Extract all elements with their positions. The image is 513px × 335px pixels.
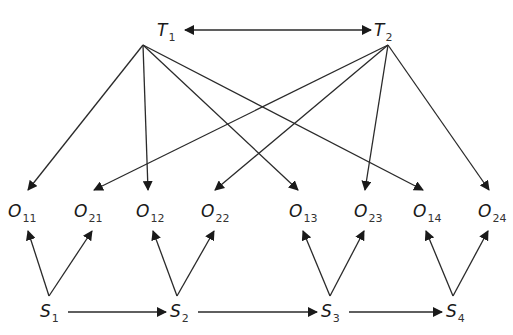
node-base-symbol: O (201, 201, 214, 221)
edge-s3-o13-arrow-icon (303, 231, 330, 296)
node-o11: O11 (8, 203, 36, 220)
edge-s2-o12-arrow-icon (153, 231, 177, 296)
edge-t2-o24-arrow-icon (388, 45, 489, 190)
node-subscript: 13 (303, 212, 317, 225)
edge-s1-o11-arrow-icon (28, 231, 49, 296)
node-base-symbol: S (446, 301, 457, 321)
edge-s4-o14-arrow-icon (426, 231, 453, 296)
path-diagram (0, 0, 513, 335)
node-base-symbol: O (74, 201, 87, 221)
figure-caption (8, 327, 508, 335)
node-base-symbol: O (354, 201, 367, 221)
node-base-symbol: O (413, 201, 426, 221)
node-subscript: 11 (22, 212, 36, 225)
node-subscript: 3 (333, 312, 340, 325)
node-base-symbol: O (136, 201, 149, 221)
node-o14: O14 (413, 203, 441, 220)
node-s2: S2 (170, 303, 189, 320)
node-s1: S1 (40, 303, 59, 320)
edge-layer (28, 30, 489, 312)
node-base-symbol: S (40, 301, 51, 321)
node-o12: O12 (136, 203, 164, 220)
node-base-symbol: O (289, 201, 302, 221)
edge-s2-o22-arrow-icon (177, 231, 214, 296)
node-s3: S3 (321, 303, 340, 320)
edge-t1-o13-arrow-icon (143, 45, 298, 190)
node-subscript: 4 (458, 312, 465, 325)
node-t2: T2 (374, 22, 392, 39)
node-base-symbol: T (374, 20, 384, 40)
node-subscript: 24 (492, 212, 506, 225)
edge-t1-o12-arrow-icon (143, 45, 148, 190)
node-subscript: 23 (368, 212, 382, 225)
node-o23: O23 (354, 203, 382, 220)
node-t1: T1 (157, 22, 175, 39)
node-s4: S4 (446, 303, 465, 320)
node-subscript: 12 (150, 212, 164, 225)
node-base-symbol: O (478, 201, 491, 221)
node-base-symbol: S (321, 301, 332, 321)
node-subscript: 2 (385, 31, 392, 44)
node-subscript: 2 (182, 312, 189, 325)
node-o22: O22 (201, 203, 229, 220)
edge-t1-o11-arrow-icon (28, 45, 143, 190)
node-subscript: 1 (168, 31, 175, 44)
node-base-symbol: S (170, 301, 181, 321)
node-subscript: 1 (52, 312, 59, 325)
node-o13: O13 (289, 203, 317, 220)
edge-s1-o21-arrow-icon (49, 231, 92, 296)
node-base-symbol: T (157, 20, 167, 40)
node-base-symbol: O (8, 201, 21, 221)
edge-s3-o23-arrow-icon (330, 231, 364, 296)
node-subscript: 21 (88, 212, 102, 225)
edge-t2-o23-arrow-icon (365, 45, 388, 190)
node-o21: O21 (74, 203, 102, 220)
edge-s4-o24-arrow-icon (453, 231, 488, 296)
node-o24: O24 (478, 203, 506, 220)
node-subscript: 14 (427, 212, 441, 225)
node-subscript: 22 (215, 212, 229, 225)
edge-t1-o14-arrow-icon (143, 45, 423, 190)
